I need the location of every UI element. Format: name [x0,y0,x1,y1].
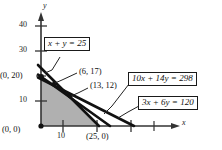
leader-6-17 [55,73,77,83]
leader-x-y-25 [45,57,60,73]
vertex-dot-origin [38,123,43,128]
leader-3x-6y [118,106,139,118]
point-label-6-17: (6, 17) [79,66,102,76]
y-axis-arrow [38,12,44,21]
callout-10x-14y-298: 10x + 14y = 298 [128,72,197,86]
callout-x-plus-y-25: x + y = 25 [44,37,90,51]
point-label-0-0: (0, 0) [2,124,20,134]
callout-3x-6y-120-text: 3x + 6y = 120 [142,97,194,107]
y-tick-label-30: 30 [19,45,27,54]
callout-x-plus-y-25-text: x + y = 25 [48,38,86,48]
leader-13-12 [71,88,88,96]
x-axis-arrow [171,123,180,129]
x-axis-label: x [182,118,186,127]
vertex-dot-0-20 [39,74,44,79]
vertex-dot-6-17 [52,81,57,86]
y-tick-label-10: 10 [19,95,27,104]
x-tick-label-10: 10 [57,131,65,140]
point-label-13-12: (13, 12) [90,80,117,90]
callout-3x-6y-120: 3x + 6y = 120 [138,96,198,110]
y-tick-label-40: 40 [19,20,27,29]
point-label-0-20: (0, 20) [0,70,23,80]
y-axis-label: y [43,1,47,10]
point-label-25-0: (25, 0) [86,131,109,141]
graph-figure: y x 40 30 10 10 (0, 20) (0, 0) (6, 17) (… [0,0,222,150]
callout-10x-14y-298-text: 10x + 14y = 298 [132,73,193,83]
